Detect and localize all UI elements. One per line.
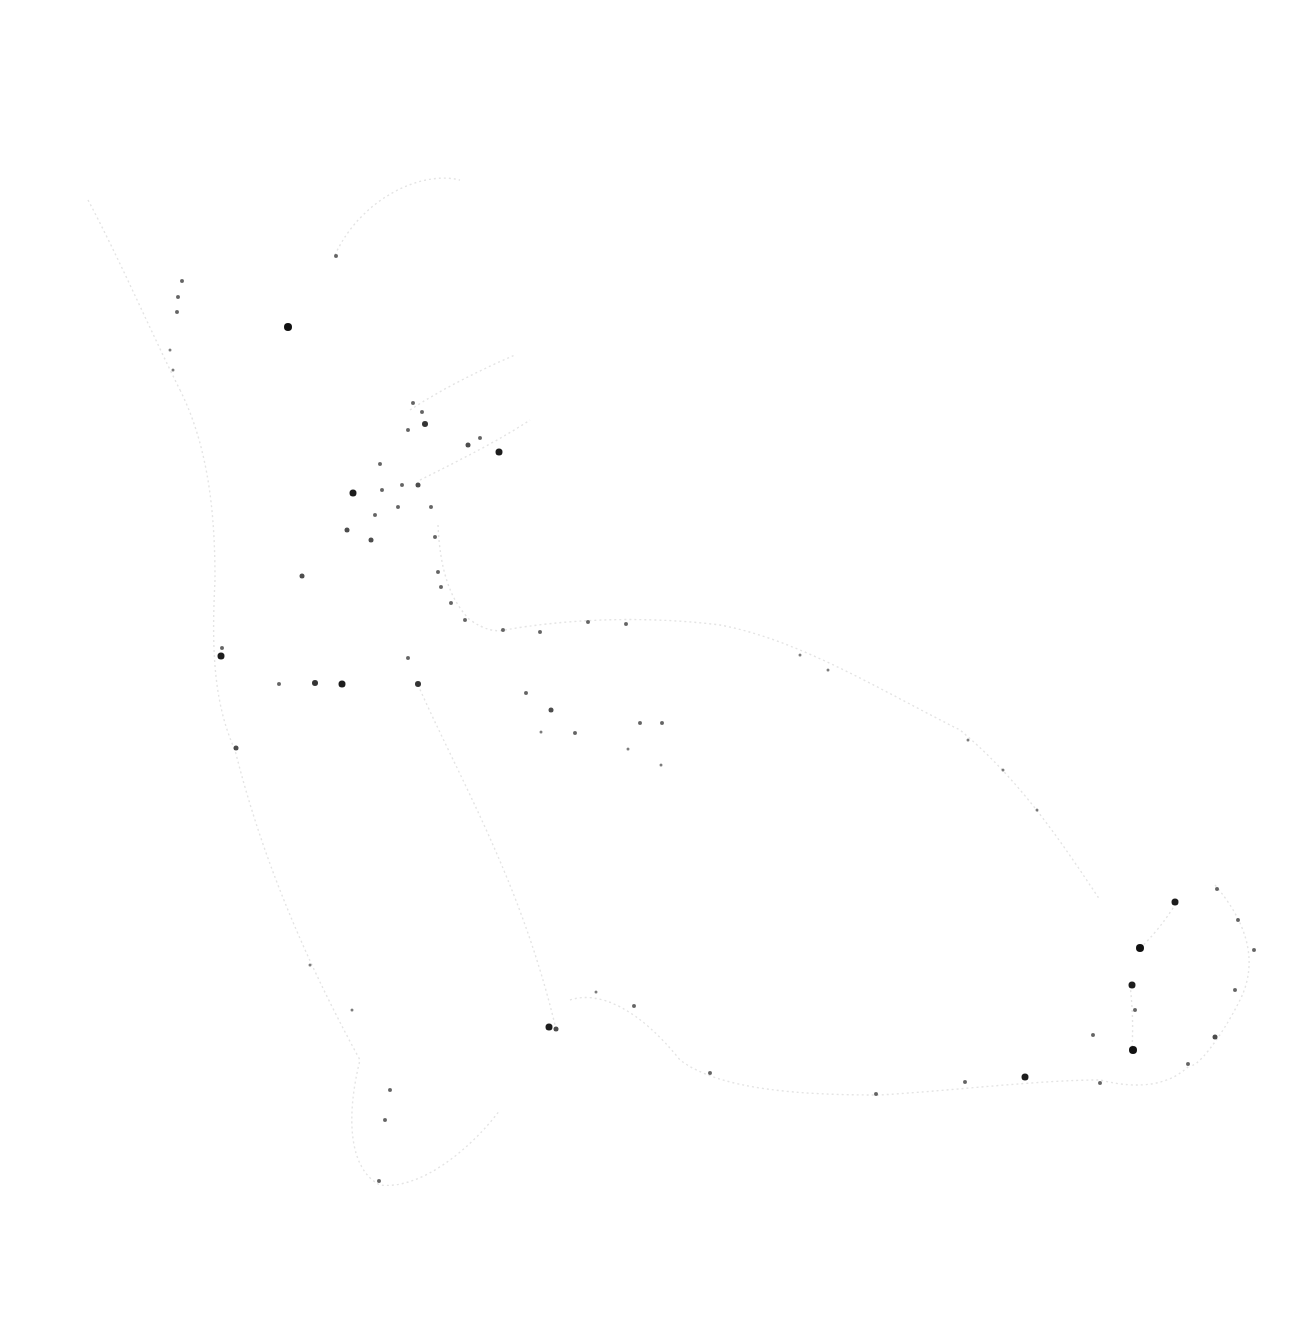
point-dot: [624, 622, 628, 626]
outline-stroke: [1140, 900, 1178, 948]
point-dot: [422, 421, 428, 427]
point-dot: [400, 483, 404, 487]
outline-stroke: [1190, 885, 1249, 1066]
point-dot: [1002, 769, 1005, 772]
point-dot: [554, 1027, 559, 1032]
point-dot: [1129, 982, 1136, 989]
outline-stroke: [88, 200, 180, 390]
point-dot: [234, 746, 239, 751]
outline-stroke: [570, 998, 1190, 1096]
point-dot: [312, 680, 318, 686]
point-dot: [377, 1179, 381, 1183]
outline-stroke: [438, 525, 505, 631]
point-dot: [284, 323, 292, 331]
point-dot: [169, 349, 172, 352]
point-dot: [406, 656, 410, 660]
point-dot: [595, 991, 598, 994]
outline-stroke: [1130, 985, 1133, 1050]
point-dot: [660, 721, 664, 725]
point-dot: [1236, 918, 1240, 922]
point-dot: [466, 443, 471, 448]
point-dot: [1136, 944, 1144, 952]
outline-stroke: [180, 390, 215, 580]
point-dot: [373, 513, 377, 517]
point-dot: [1233, 988, 1237, 992]
point-dot: [350, 490, 357, 497]
point-dot: [334, 254, 338, 258]
point-dot: [309, 964, 312, 967]
point-dot: [383, 1118, 387, 1122]
point-dot: [1098, 1081, 1102, 1085]
outline-stroke: [214, 580, 500, 1185]
point-dot: [339, 681, 346, 688]
point-dot: [463, 618, 467, 622]
point-dot: [176, 295, 180, 299]
point-dot: [406, 428, 410, 432]
point-dot: [300, 574, 305, 579]
point-dot: [277, 682, 281, 686]
point-dot: [549, 708, 554, 713]
point-dot: [396, 505, 400, 509]
outline-stroke: [335, 178, 460, 255]
point-dot: [1022, 1074, 1029, 1081]
point-dot: [449, 601, 453, 605]
point-dot: [660, 764, 663, 767]
dotted-figure-sketch: [0, 0, 1315, 1333]
point-dot: [538, 630, 542, 634]
point-dot: [586, 620, 590, 624]
outline-stroke: [505, 620, 1100, 900]
point-dot: [638, 721, 642, 725]
point-dot: [573, 731, 577, 735]
point-dot: [627, 748, 630, 751]
point-dot: [429, 505, 433, 509]
point-dot: [827, 669, 830, 672]
point-dot: [420, 410, 424, 414]
point-dot: [1215, 887, 1219, 891]
point-dot: [369, 538, 374, 543]
point-dot: [799, 654, 802, 657]
figure-outline: [88, 178, 1249, 1185]
point-dot: [172, 369, 175, 372]
point-dot: [632, 1004, 636, 1008]
figure-dots: [169, 254, 1257, 1183]
point-dot: [218, 653, 225, 660]
point-dot: [501, 628, 505, 632]
point-dot: [416, 483, 421, 488]
point-dot: [378, 462, 382, 466]
point-dot: [967, 739, 970, 742]
point-dot: [1129, 1046, 1137, 1054]
point-dot: [388, 1088, 392, 1092]
outline-stroke: [418, 685, 555, 1025]
point-dot: [1036, 809, 1039, 812]
point-dot: [524, 691, 528, 695]
point-dot: [1133, 1008, 1137, 1012]
point-dot: [180, 279, 184, 283]
point-dot: [439, 585, 443, 589]
point-dot: [220, 646, 224, 650]
point-dot: [963, 1080, 967, 1084]
point-dot: [1091, 1033, 1095, 1037]
outline-stroke: [420, 420, 530, 480]
point-dot: [433, 535, 437, 539]
point-dot: [708, 1071, 712, 1075]
point-dot: [345, 528, 350, 533]
point-dot: [1172, 899, 1179, 906]
point-dot: [496, 449, 503, 456]
point-dot: [478, 436, 482, 440]
point-dot: [380, 488, 384, 492]
outline-stroke: [410, 355, 515, 410]
point-dot: [1186, 1062, 1190, 1066]
point-dot: [1213, 1035, 1218, 1040]
point-dot: [546, 1024, 553, 1031]
point-dot: [1252, 948, 1256, 952]
point-dot: [351, 1009, 354, 1012]
point-dot: [540, 731, 543, 734]
point-dot: [436, 570, 440, 574]
point-dot: [415, 681, 421, 687]
point-dot: [411, 401, 415, 405]
point-dot: [874, 1092, 878, 1096]
point-dot: [175, 310, 179, 314]
